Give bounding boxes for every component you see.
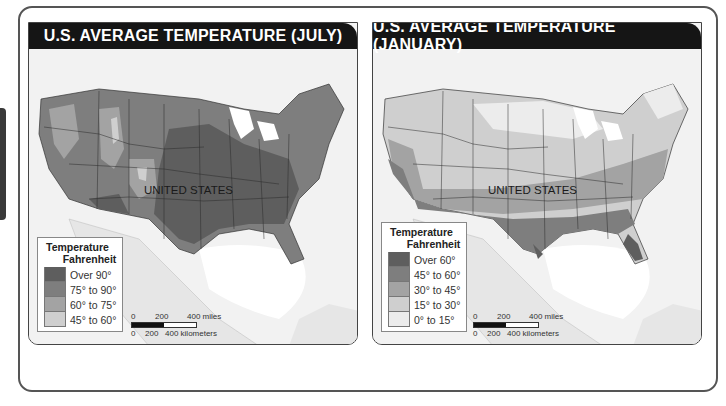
legend-swatch: [44, 312, 66, 327]
legend-label: 30° to 45°: [414, 284, 460, 296]
scale-tick: 400 kilometers: [507, 329, 559, 338]
scale-tick: 200: [487, 329, 507, 338]
legend-item: 15° to 30°: [388, 297, 460, 312]
legend-item: 45° to 60°: [388, 267, 460, 282]
scale-tick: 400 miles: [529, 312, 563, 321]
map-title: U.S. AVERAGE TEMPERATURE (JULY): [29, 23, 357, 49]
legend-item: 75° to 90°: [44, 282, 116, 297]
legend-label: 15° to 30°: [414, 299, 460, 311]
map-panel-january: U.S. AVERAGE TEMPERATURE (JANUARY): [372, 22, 702, 345]
legend-subtitle: Fahrenheit: [44, 253, 116, 265]
legend-swatch: [44, 282, 66, 297]
legend-item: Over 90°: [44, 267, 116, 282]
scale-tick: 0: [473, 329, 487, 338]
legend-label: Over 60°: [414, 254, 456, 266]
legend-swatch: [44, 267, 66, 282]
legend-swatch: [44, 297, 66, 312]
scale-bar: 0200400 miles 0200400 kilometers: [131, 312, 221, 338]
scale-tick: 0: [131, 312, 155, 321]
legend-label: 45° to 60°: [414, 269, 460, 281]
legend-label: 45° to 60°: [70, 314, 116, 326]
scale-bar: 0200400 miles 0200400 kilometers: [473, 312, 563, 338]
map-title: U.S. AVERAGE TEMPERATURE (JANUARY): [373, 23, 701, 49]
scale-bar-graphic: [473, 322, 539, 328]
country-label: UNITED STATES: [488, 184, 577, 196]
legend-label: Over 90°: [70, 269, 112, 281]
legend-july: Temperature Fahrenheit Over 90° 75° to 9…: [37, 237, 123, 332]
legend-title: Temperature: [390, 226, 460, 238]
legend-swatch: [388, 282, 410, 297]
legend-item: 0° to 15°: [388, 312, 460, 327]
legend-label: 0° to 15°: [414, 314, 455, 326]
legend-title: Temperature: [46, 241, 116, 253]
legend-item: Over 60°: [388, 252, 460, 267]
legend-subtitle: Fahrenheit: [388, 238, 460, 250]
scale-tick: 200: [155, 312, 187, 321]
legend-label: 75° to 90°: [70, 284, 116, 296]
scale-tick: 0: [131, 329, 145, 338]
legend-swatch: [388, 312, 410, 327]
scale-bar-graphic: [131, 322, 197, 328]
legend-swatch: [388, 297, 410, 312]
country-label: UNITED STATES: [144, 184, 233, 196]
scale-tick: 0: [473, 312, 497, 321]
scale-tick: 200: [497, 312, 529, 321]
legend-swatch: [388, 252, 410, 267]
scale-tick: 200: [145, 329, 165, 338]
legend-january: Temperature Fahrenheit Over 60° 45° to 6…: [381, 222, 467, 332]
scale-tick: 400 kilometers: [165, 329, 217, 338]
legend-swatch: [388, 267, 410, 282]
map-panel-july: U.S. AVERAGE TEMPERATURE (JULY): [28, 22, 358, 345]
legend-label: 60° to 75°: [70, 299, 116, 311]
legend-item: 60° to 75°: [44, 297, 116, 312]
legend-item: 30° to 45°: [388, 282, 460, 297]
scale-tick: 400 miles: [187, 312, 221, 321]
side-tab: [0, 108, 6, 220]
legend-item: 45° to 60°: [44, 312, 116, 327]
